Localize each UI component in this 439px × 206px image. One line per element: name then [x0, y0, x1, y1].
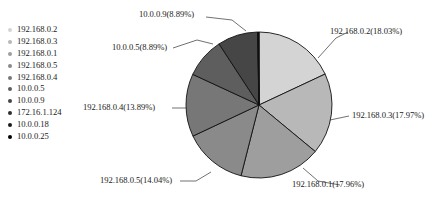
slice-label-192-168-0-3: 192.168.0.3(17.97%) [352, 110, 424, 120]
slice-label-192-168-0-5: 192.168.0.5(14.04%) [100, 175, 172, 185]
slice-label-10-0-0-9: 10.0.0.9(8.89%) [139, 9, 194, 19]
legend-color-swatch-icon [8, 76, 12, 80]
pie-slice[interactable] [193, 105, 259, 176]
leader-line-bottom-right [303, 168, 340, 185]
leader-lines [172, 17, 349, 185]
leader-line-right [330, 116, 349, 120]
legend-item-label: 192.168.0.2 [17, 24, 57, 36]
pie-slice[interactable] [259, 74, 332, 151]
pie-slice[interactable] [257, 32, 259, 105]
pie-slice[interactable] [241, 105, 315, 178]
pie-slice[interactable] [193, 44, 259, 105]
pie-slice[interactable] [219, 32, 259, 105]
legend-item-label: 10.0.0.5 [17, 83, 45, 95]
legend-item[interactable]: 10.0.0.25 [8, 131, 104, 143]
legend-color-swatch-icon [8, 99, 12, 103]
legend-item-label: 192.168.0.5 [17, 60, 57, 72]
legend-color-swatch-icon [8, 40, 12, 44]
legend-item[interactable]: 192.168.0.1 [8, 48, 104, 60]
legend-item[interactable]: 10.0.0.9 [8, 95, 104, 107]
legend-item[interactable]: 172.16.1.124 [8, 107, 104, 119]
legend-item[interactable]: 192.168.0.3 [8, 36, 104, 48]
legend: 192.168.0.2192.168.0.3192.168.0.1192.168… [8, 24, 104, 143]
slice-label-192-168-0-2: 192.168.0.2(18.03%) [330, 26, 402, 36]
legend-item[interactable]: 192.168.0.5 [8, 60, 104, 72]
legend-item-label: 172.16.1.124 [17, 107, 62, 119]
legend-color-swatch-icon [8, 64, 12, 68]
leader-line-top [206, 17, 246, 31]
legend-item-label: 10.0.0.25 [17, 131, 49, 143]
pie-slice[interactable] [258, 32, 259, 105]
leader-line-bottom-left [180, 172, 211, 181]
legend-color-swatch-icon [8, 135, 12, 139]
legend-item-label: 192.168.0.1 [17, 48, 57, 60]
legend-item-label: 10.0.0.9 [17, 95, 45, 107]
legend-item[interactable]: 192.168.0.4 [8, 72, 104, 84]
legend-item-label: 192.168.0.4 [17, 72, 57, 84]
pie-slices [186, 32, 332, 178]
slice-label-192-168-0-1: 192.168.0.1(17.96%) [292, 179, 364, 189]
pie-slice[interactable] [259, 32, 325, 105]
legend-item[interactable]: 10.0.0.5 [8, 83, 104, 95]
legend-color-swatch-icon [8, 28, 12, 32]
slice-label-10-0-0-5: 10.0.0.5(8.89%) [112, 42, 167, 52]
legend-item[interactable]: 192.168.0.2 [8, 24, 104, 36]
legend-item-label: 192.168.0.3 [17, 36, 57, 48]
leader-line-upper-right [318, 32, 348, 58]
legend-item[interactable]: 10.0.0.18 [8, 119, 104, 131]
legend-color-swatch-icon [8, 52, 12, 56]
legend-item-label: 10.0.0.18 [17, 119, 49, 131]
leader-line-upper-left [173, 40, 213, 48]
legend-color-swatch-icon [8, 123, 12, 127]
legend-color-swatch-icon [8, 111, 12, 115]
legend-color-swatch-icon [8, 87, 12, 91]
pie-slice[interactable] [186, 74, 259, 136]
